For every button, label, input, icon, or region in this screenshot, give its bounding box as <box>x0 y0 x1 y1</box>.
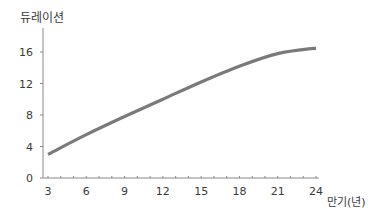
x-tick-label: 18 <box>232 185 246 198</box>
x-tick-label: 3 <box>45 185 52 198</box>
y-tick-label: 4 <box>26 141 33 154</box>
y-tick-label: 8 <box>26 109 33 122</box>
x-tick-label: 15 <box>194 185 208 198</box>
y-tick-label: 16 <box>19 46 33 59</box>
chart-axes <box>43 28 319 178</box>
x-tick-label: 12 <box>156 185 170 198</box>
x-tick-label: 21 <box>271 185 285 198</box>
x-tick-label: 6 <box>83 185 90 198</box>
line-chart: 04812163691215182124 <box>0 0 378 218</box>
y-tick-label: 12 <box>19 78 33 91</box>
x-tick-label: 24 <box>309 185 323 198</box>
duration-line <box>48 48 316 154</box>
y-tick-label: 0 <box>26 172 33 185</box>
x-tick-label: 9 <box>121 185 128 198</box>
chart-ticks: 04812163691215182124 <box>19 46 323 198</box>
chart-series <box>48 48 316 154</box>
